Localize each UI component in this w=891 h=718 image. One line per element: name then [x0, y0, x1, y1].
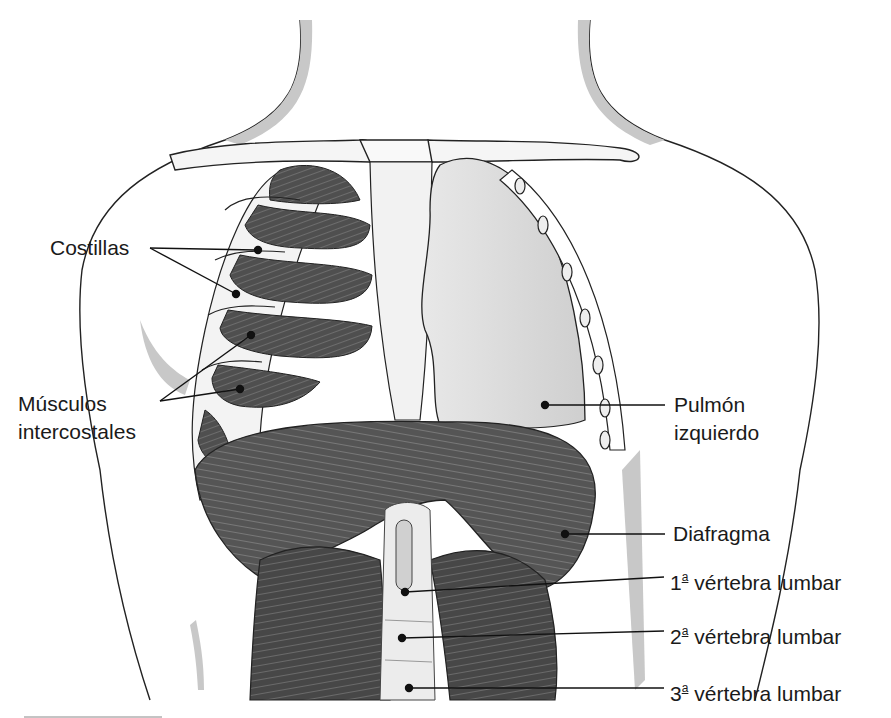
vertebra-1-text: vértebra lumbar [688, 571, 841, 594]
label-izquierdo: izquierdo [674, 421, 759, 445]
vertebra-3-number: 3 [670, 682, 682, 705]
thorax-illustration [0, 0, 891, 718]
label-costillas: Costillas [50, 236, 129, 260]
vertebra-1-number: 1 [670, 571, 682, 594]
label-diafragma: Diafragma [673, 522, 770, 546]
label-vertebra-3: 3a vértebra lumbar [670, 676, 841, 706]
label-intercostales: intercostales [18, 420, 136, 444]
vertebra-2-number: 2 [670, 625, 682, 648]
label-vertebra-1: 1a vértebra lumbar [670, 565, 841, 595]
label-vertebra-2: 2a vértebra lumbar [670, 619, 841, 649]
anatomy-diagram: Costillas Músculos intercostales Pulmón … [0, 0, 891, 718]
lumbar-spine [380, 503, 435, 701]
vertebra-3-text: vértebra lumbar [688, 682, 841, 705]
label-pulmon: Pulmón [674, 393, 745, 417]
vertebra-2-text: vértebra lumbar [688, 625, 841, 648]
left-lung [422, 159, 585, 429]
label-musculos: Músculos [18, 392, 107, 416]
